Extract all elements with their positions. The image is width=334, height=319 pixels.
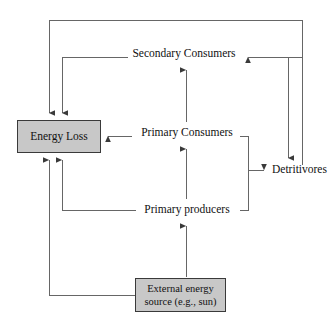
node-secondary-consumers: Secondary Consumers [128,47,240,60]
node-detritivores: Detritivores [272,163,334,176]
node-primary-consumers: Primary Consumers [135,126,239,139]
node-external-energy-source: External energy source (e.g., sun) [135,278,226,312]
energy-flow-diagram: Energy Loss External energy source (e.g.… [0,0,334,319]
node-energy-loss-label: Energy Loss [30,130,88,143]
edge-primary-consumers-to-detritivores [240,136,248,170]
edge-primary-producers-to-energy-loss [62,160,136,210]
edge-primary-producers-to-detritivores [240,170,248,210]
node-external-energy-source-label-line2: source (e.g., sun) [144,296,216,308]
edge-detritivores-to-energy-loss [49,20,302,113]
node-primary-producers: Primary producers [136,203,238,216]
node-external-energy-source-label-line1: External energy [147,283,214,295]
edge-secondary-consumers-to-energy-loss [62,57,128,113]
node-energy-loss: Energy Loss [17,120,101,153]
